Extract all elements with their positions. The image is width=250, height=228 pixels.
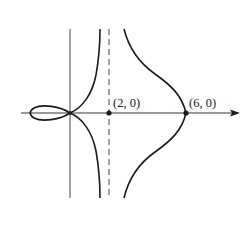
origin-point: [68, 111, 72, 115]
right-branch-lower: [124, 113, 186, 198]
graph-figure: (2, 0) (6, 0): [0, 0, 250, 228]
left-branch-lower: [70, 113, 100, 198]
point-6-0: [183, 110, 188, 115]
point-2-0: [106, 110, 111, 115]
left-branch-upper: [70, 29, 100, 113]
label-6-0: (6, 0): [189, 96, 216, 110]
label-2-0: (2, 0): [113, 96, 140, 110]
